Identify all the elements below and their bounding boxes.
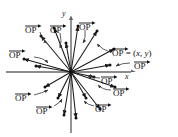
vector-label-right-upper: OP bbox=[134, 61, 146, 71]
position-vectors-figure: y x OP OP OP OP OP = (x, y) OP OP OP OP … bbox=[0, 0, 178, 137]
vector-label-right-lower: OP bbox=[101, 76, 113, 86]
vector-equation-label: OP = (x, y) bbox=[112, 48, 152, 58]
y-axis-label: y bbox=[62, 9, 66, 18]
vector-label-upper-right-inner: OP bbox=[79, 22, 91, 32]
vector-label-lower-right-b: OP bbox=[95, 104, 107, 114]
x-axis-label: x bbox=[125, 72, 129, 81]
vector-label-lower-left-b: OP bbox=[36, 106, 48, 116]
vector-label-lower-right-a: OP bbox=[113, 88, 125, 98]
vector-label-upper-left-inner: OP bbox=[50, 25, 62, 35]
vector-label-upper-left-outer: OP bbox=[25, 25, 37, 35]
vector-label-lower-left-a: OP bbox=[15, 93, 27, 103]
vector-label-left: OP bbox=[9, 50, 21, 60]
equation-close: ) bbox=[149, 48, 152, 58]
